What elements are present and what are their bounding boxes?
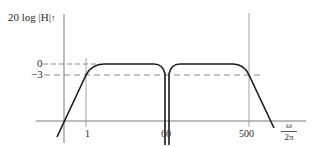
response-curve-left: [57, 64, 165, 145]
up-arrow-icon: ↑: [51, 13, 56, 23]
y-axis-label: 20 log |H|↑: [8, 12, 55, 24]
y-tick-label-minus3db: −3: [31, 69, 43, 80]
x-axis-label-denominator: 2π: [281, 132, 297, 142]
x-tick-label-500: 500: [239, 128, 254, 139]
x-tick-label-1: 1: [85, 128, 90, 139]
x-axis-label-numerator: ω: [281, 121, 297, 132]
response-curve-right: [169, 64, 274, 145]
x-tick-label-60: 60: [161, 128, 171, 139]
x-axis-label: ω 2π: [281, 121, 297, 142]
y-axis-label-text: 20 log |H|: [8, 11, 51, 23]
